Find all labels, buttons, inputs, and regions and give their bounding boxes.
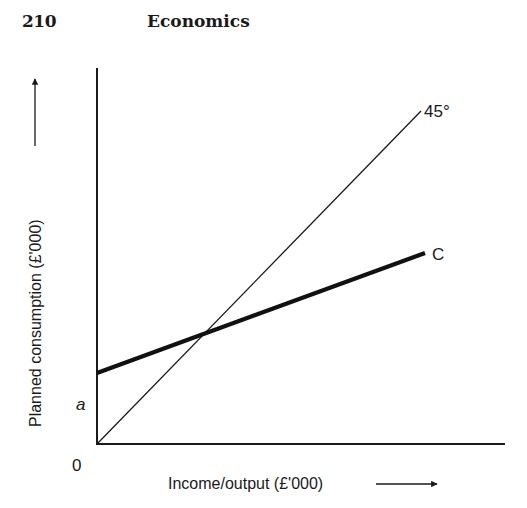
x-axis-label: Income/output (£'000) [168,475,323,492]
consumption-function-chart: 45° C a 0 Income/output (£'000) Planned … [0,0,527,508]
45-degree-label: 45° [424,102,450,121]
y-axis-label: Planned consumption (£'000) [27,219,44,427]
45-degree-line [97,111,421,444]
consumption-line-label: C [432,245,444,264]
consumption-line-c [97,253,425,373]
origin-label: 0 [72,456,81,475]
intercept-label-a: a [76,395,85,414]
